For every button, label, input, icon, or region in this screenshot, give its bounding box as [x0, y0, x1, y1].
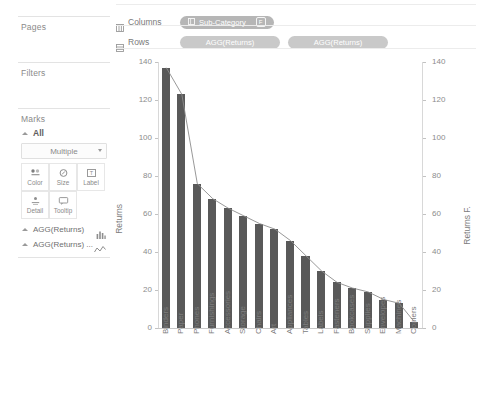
y-tick-left-140: 140 — [124, 57, 152, 66]
size-button-label: Size — [57, 180, 69, 186]
shelf-divider-bottom — [116, 48, 476, 49]
chevron-down-icon[interactable] — [22, 241, 29, 248]
rows-grid-icon — [116, 38, 124, 46]
marks-all-row[interactable]: All — [18, 124, 110, 138]
y-tickmark-right — [423, 100, 426, 101]
line-chart-icon — [94, 240, 106, 258]
y-tickmark-left — [155, 100, 158, 101]
size-button[interactable]: Size — [49, 163, 77, 191]
y-tickmark-right — [423, 214, 426, 215]
columns-shelf[interactable]: Columns Sub-Category F — [116, 13, 274, 31]
mark-layer-label: AGG(Returns) — [33, 225, 84, 234]
color-button-label: Color — [27, 180, 42, 186]
y-tick-left-100: 100 — [124, 133, 152, 142]
y-tick-right-80: 80 — [432, 171, 462, 180]
y-tickmark-left — [155, 176, 158, 177]
x-axis-label-binders[interactable]: Binders — [161, 307, 170, 334]
x-axis-label-supplies[interactable]: Supplies — [363, 303, 372, 334]
mark-layers-list: AGG(Returns) AGG(Returns) ... — [18, 222, 110, 252]
svg-text:T: T — [89, 170, 93, 176]
detail-icon — [30, 196, 41, 207]
y-tick-right-0: 0 — [432, 323, 462, 332]
line-series-overlay — [158, 62, 423, 329]
x-axis-label-chairs[interactable]: Chairs — [254, 311, 263, 334]
mark-type-dropdown[interactable]: Multiple — [21, 143, 107, 159]
x-axis-label-tables[interactable]: Tables — [301, 311, 310, 334]
filters-card-title: Filters — [18, 63, 110, 78]
y-tick-left-40: 40 — [124, 247, 152, 256]
x-axis-label-storage[interactable]: Storage — [238, 306, 247, 334]
y-tick-right-60: 60 — [432, 209, 462, 218]
label-button[interactable]: T Label — [77, 163, 105, 191]
tooltip-icon — [58, 196, 69, 207]
x-axis-label-envelopes[interactable]: Envelopes — [378, 297, 387, 334]
rows-shelf-name: Rows — [128, 37, 149, 47]
y-tick-left-20: 20 — [124, 285, 152, 294]
chevron-down-icon[interactable] — [22, 226, 29, 233]
pill-agg-returns-2[interactable]: AGG(Returns) — [288, 36, 388, 49]
x-axis-label-bookcases[interactable]: Bookcases — [347, 295, 356, 334]
y-tick-right-40: 40 — [432, 247, 462, 256]
x-axis-label-art[interactable]: Art — [269, 324, 278, 334]
pill-sub-category[interactable]: Sub-Category F — [180, 16, 274, 29]
x-axis-label-labels[interactable]: Labels — [316, 310, 325, 334]
chevron-down-icon[interactable] — [22, 130, 29, 137]
filters-card[interactable]: Filters — [18, 62, 110, 108]
y-tickmark-left — [155, 62, 158, 63]
y-tickmark-right — [423, 62, 426, 63]
y-tickmark-left — [155, 138, 158, 139]
marks-button-grid: Color Size T Label — [21, 163, 107, 219]
x-axis-label-fasteners[interactable]: Fasteners — [332, 298, 341, 334]
tooltip-button[interactable]: Tooltip — [49, 191, 77, 219]
y-tickmark-right — [423, 252, 426, 253]
shelf-area: Columns Sub-Category F Rows — [110, 0, 482, 54]
y-tickmark-left — [155, 214, 158, 215]
tooltip-button-label: Tooltip — [54, 208, 72, 214]
size-icon — [58, 168, 69, 179]
y-tick-left-80: 80 — [124, 171, 152, 180]
y-tick-right-100: 100 — [432, 133, 462, 142]
color-button[interactable]: Color — [21, 163, 49, 191]
y-tickmark-left — [155, 252, 158, 253]
label-button-label: Label — [83, 180, 99, 186]
y-tickmark-right — [423, 138, 426, 139]
label-icon: T — [86, 168, 97, 179]
shelf-divider-top — [116, 4, 476, 5]
x-axis-label-phones[interactable]: Phones — [192, 307, 201, 334]
pill-agg-returns-1[interactable]: AGG(Returns) — [180, 36, 280, 49]
mark-type-value: Multiple — [50, 147, 78, 156]
y-tickmark-right — [423, 176, 426, 177]
y-tick-right-140: 140 — [432, 57, 462, 66]
y-tick-left-60: 60 — [124, 209, 152, 218]
y-tickmark-right — [423, 328, 426, 329]
y-tickmark-left — [155, 290, 158, 291]
mark-layer-agg-returns-line[interactable]: AGG(Returns) ... — [18, 237, 110, 252]
x-axis-label-copiers[interactable]: Copiers — [409, 306, 418, 334]
x-axis-label-appliances[interactable]: Appliances — [285, 295, 294, 334]
y-axis-title-left: Returns — [114, 204, 124, 234]
rows-shelf-label-group: Rows — [116, 37, 174, 47]
y-tick-left-120: 120 — [124, 95, 152, 104]
x-axis-label-furnishings[interactable]: Furnishings — [207, 293, 216, 334]
marks-all-label: All — [33, 128, 44, 138]
detail-button[interactable]: Detail — [21, 191, 49, 219]
x-axis-label-accessories[interactable]: Accessories — [223, 291, 232, 334]
line-series[interactable] — [166, 68, 414, 323]
marks-card-title: Marks — [18, 109, 110, 124]
color-icon — [30, 168, 41, 179]
y-tick-left-0: 0 — [124, 323, 152, 332]
chevron-down-icon[interactable] — [98, 149, 102, 152]
shelf-divider-mid — [116, 25, 476, 26]
y-tick-right-20: 20 — [432, 285, 462, 294]
y-tickmark-left — [155, 328, 158, 329]
x-axis-label-machines[interactable]: Machines — [394, 300, 403, 334]
x-axis-label-paper[interactable]: Paper — [176, 313, 185, 334]
y-axis-title-right: Returns F. — [462, 206, 472, 245]
left-sidebar: Pages Filters Marks All Multiple — [0, 0, 110, 397]
pill-agg-returns-2-label: AGG(Returns) — [314, 38, 363, 47]
y-tick-right-120: 120 — [432, 95, 462, 104]
mark-layer-agg-returns-bar[interactable]: AGG(Returns) — [18, 222, 110, 237]
chart-canvas: Returns Returns F. 002020404060608080100… — [110, 54, 482, 397]
pages-card[interactable]: Pages — [18, 16, 110, 62]
detail-button-label: Detail — [27, 208, 43, 214]
